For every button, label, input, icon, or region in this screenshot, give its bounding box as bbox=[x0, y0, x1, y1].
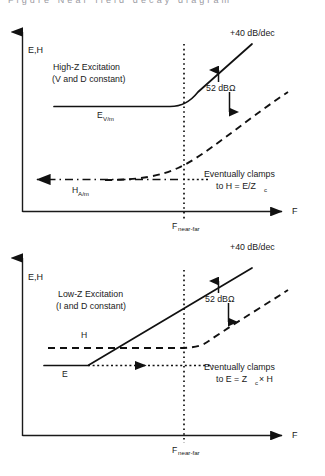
chart-low-z: E,H F F near-far Low-Z Excitation (I and… bbox=[23, 242, 299, 456]
low-z-clamp-text-line2-post: × H bbox=[259, 374, 273, 384]
near-field-decay-diagram: E,H F F near-far High-Z Excitation (V an… bbox=[0, 0, 325, 476]
high-z-annotation-line1: High-Z Excitation bbox=[53, 62, 120, 72]
high-z-slope-label: +40 dB/dec bbox=[230, 28, 275, 38]
high-z-gap-label: 52 dBΩ bbox=[206, 83, 236, 93]
low-z-clamp-text-line2-sub: c bbox=[255, 379, 258, 386]
low-z-annotation-line1: Low-Z Excitation bbox=[58, 289, 123, 299]
high-z-annotation-line2: (V and D constant) bbox=[52, 74, 125, 84]
low-z-fnearfar-label-sub: near-far bbox=[178, 449, 200, 456]
high-z-clamp-text-line2: to H = E/Z bbox=[216, 181, 256, 191]
cropped-header-text: Figure Near field decay diagram bbox=[8, 0, 232, 5]
high-z-clamp-text-line1: Eventually clamps bbox=[204, 169, 275, 179]
low-z-x-axis-label: F bbox=[292, 430, 298, 440]
figure-container: Figure Near field decay diagram bbox=[0, 0, 325, 476]
high-z-curve-H bbox=[105, 92, 288, 180]
low-z-y-axis-label: E,H bbox=[28, 272, 43, 282]
low-z-curve-E bbox=[44, 268, 252, 366]
high-z-label-H-sub: A/m bbox=[78, 190, 89, 197]
low-z-label-E-main: E bbox=[62, 369, 68, 379]
cropped-header-strip: Figure Near field decay diagram bbox=[0, 0, 325, 9]
high-z-y-axis-label: E,H bbox=[28, 45, 43, 55]
high-z-x-axis-label: F bbox=[292, 206, 298, 216]
high-z-fnearfar-label-sub: near-far bbox=[178, 225, 200, 232]
low-z-gap-label: 52 dBΩ bbox=[205, 294, 235, 304]
high-z-clamp-text-line2-sub: c bbox=[264, 186, 267, 193]
low-z-fnearfar-label-main: F bbox=[172, 445, 177, 455]
chart-high-z: E,H F F near-far High-Z Excitation (V an… bbox=[23, 28, 299, 232]
low-z-slope-label: +40 dB/dec bbox=[230, 242, 275, 252]
low-z-label-H-main: H bbox=[81, 330, 87, 340]
high-z-fnearfar-label-main: F bbox=[172, 221, 177, 231]
high-z-label-E-sub: V/m bbox=[103, 115, 114, 122]
low-z-annotation-line2: (I and D constant) bbox=[56, 301, 126, 311]
low-z-clamp-text-line2: to E = Z bbox=[216, 374, 248, 384]
low-z-clamp-text-line1: Eventually clamps bbox=[204, 362, 275, 372]
